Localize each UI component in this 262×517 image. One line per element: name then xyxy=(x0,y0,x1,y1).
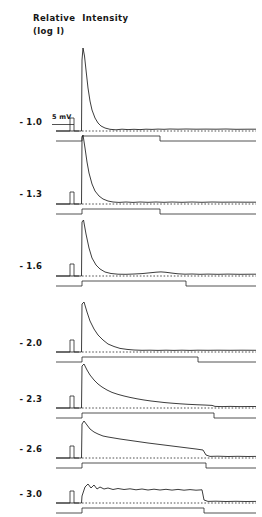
response-trace-7 xyxy=(56,484,256,503)
response-trace-6 xyxy=(56,421,256,458)
trace-group-6 xyxy=(56,421,256,468)
trace-group-3 xyxy=(56,220,256,286)
trace-group-1 xyxy=(52,48,256,141)
stimulus-marker-7 xyxy=(56,508,256,513)
calibration-pulse-4 xyxy=(56,340,79,352)
trace-group-5 xyxy=(56,364,256,418)
calibration-pulse-3 xyxy=(56,264,79,276)
stimulus-marker-1 xyxy=(56,136,256,141)
trace-group-7 xyxy=(56,484,256,513)
calibration-pulse-2 xyxy=(56,192,79,204)
stimulus-marker-6 xyxy=(56,463,256,468)
response-trace-5 xyxy=(56,364,256,408)
traces-canvas xyxy=(0,0,262,517)
stimulus-marker-3 xyxy=(56,281,256,286)
response-trace-4 xyxy=(56,302,256,352)
response-trace-1 xyxy=(56,48,256,131)
response-trace-3 xyxy=(56,220,256,276)
stimulus-marker-2 xyxy=(56,209,256,214)
trace-group-2 xyxy=(56,135,256,214)
calibration-pulse-5 xyxy=(56,396,79,408)
response-trace-2 xyxy=(56,135,256,204)
recording-figure: Relative Intensity(log I) - 1.0 - 1.3 - … xyxy=(0,0,262,517)
calibration-pulse-7 xyxy=(56,491,79,503)
stimulus-marker-5 xyxy=(56,413,256,418)
calibration-pulse-6 xyxy=(56,446,79,458)
stimulus-marker-4 xyxy=(56,357,256,362)
trace-group-4 xyxy=(56,302,256,362)
